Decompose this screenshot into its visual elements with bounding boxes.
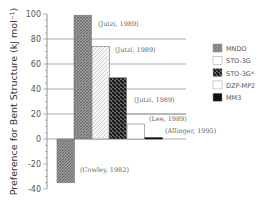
bar-chart: Preference for Bent Structure (kJ mol⁻¹)… bbox=[0, 0, 263, 200]
legend-swatch bbox=[213, 81, 222, 89]
legend-swatch bbox=[213, 93, 222, 101]
y-tick-label: 40 bbox=[31, 85, 41, 94]
bar-sto-3g bbox=[92, 47, 110, 140]
legend-label: MM3 bbox=[226, 94, 241, 102]
legend-swatch bbox=[213, 69, 222, 77]
legend-label: MNDO bbox=[226, 45, 247, 53]
y-axis: 100806040200-20-40 bbox=[26, 10, 47, 194]
bar-annotation: (Jutzi, 1989) bbox=[98, 20, 139, 28]
bar-annotation: (Jutzi, 1989) bbox=[115, 46, 156, 54]
bar-sto-3g- bbox=[109, 78, 127, 139]
bar-annotation: (Lee, 1989) bbox=[149, 115, 187, 123]
y-tick-label: 0 bbox=[36, 135, 41, 144]
bar-mndo bbox=[57, 139, 75, 183]
y-axis-title: Preference for Bent Structure (kJ mol⁻¹) bbox=[8, 8, 19, 196]
legend-label: STO-3G bbox=[226, 57, 251, 65]
bar-mm3 bbox=[145, 138, 163, 139]
bar-dzp-mp2 bbox=[127, 124, 145, 139]
legend: MNDOSTO-3GSTO-3G*DZP-MP2MM3 bbox=[213, 44, 255, 102]
y-tick-label: -20 bbox=[28, 160, 41, 169]
bar-annotation: (Allinger, 1995) bbox=[165, 127, 217, 135]
bar-annotation: (Jutzi, 1989) bbox=[134, 96, 175, 104]
y-tick-label: 80 bbox=[31, 35, 41, 44]
y-tick-label: 60 bbox=[31, 60, 41, 69]
bar-mndo bbox=[74, 15, 92, 139]
legend-label: STO-3G* bbox=[226, 70, 255, 78]
y-tick-label: 100 bbox=[26, 10, 41, 19]
y-axis-label: Preference for Bent Structure (kJ mol⁻¹) bbox=[8, 8, 19, 196]
legend-swatch bbox=[213, 44, 222, 52]
legend-swatch bbox=[213, 56, 222, 64]
y-tick-label: -40 bbox=[28, 185, 41, 194]
y-tick-label: 20 bbox=[31, 110, 41, 119]
legend-label: DZP-MP2 bbox=[226, 82, 255, 90]
bar-annotation: (Cowley, 1982) bbox=[80, 166, 129, 174]
